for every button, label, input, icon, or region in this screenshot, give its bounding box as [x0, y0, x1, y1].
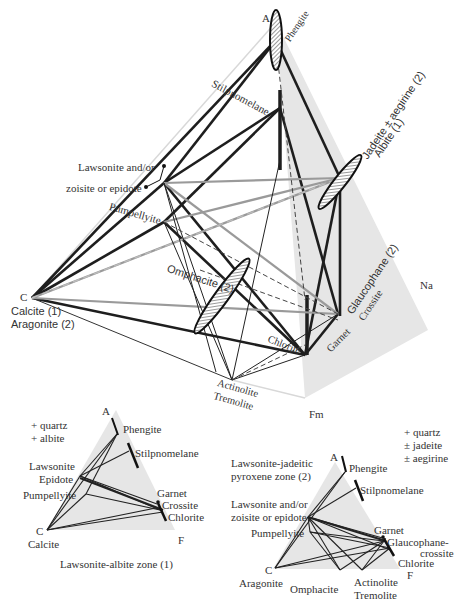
assemblage-2-jadeite: ± jadeite: [404, 440, 442, 451]
d2-vertex-f: F: [407, 570, 413, 581]
d1-caption: Lawsonite-albite zone (1): [60, 559, 173, 570]
d1-label-chlorite: Chlorite: [168, 512, 204, 523]
shaded-face: [276, 22, 428, 398]
d2-label-actinolite: Actinolite: [354, 577, 398, 588]
label-calcite: Calcite (1): [11, 306, 61, 317]
omphacite-field: [189, 255, 254, 338]
d2-label-omphacite: Omphacite: [290, 584, 338, 595]
d2-label-aragonite: Aragonite: [239, 578, 283, 589]
d1-label-lawsonite: Lawsonite: [29, 461, 75, 472]
label-zoisite-epidote: zoisite or epidote: [66, 183, 142, 194]
d1-vertex-f: F: [178, 535, 184, 546]
d1-vertex-c: C: [36, 526, 43, 537]
assemblage-1-quartz: + quartz: [31, 420, 67, 431]
d2-label-stilpnomelane: Stilpnomelane: [360, 485, 424, 496]
phengite-field: [270, 10, 282, 70]
label-lawsonite: Lawsonite and/or: [78, 162, 155, 173]
label-aragonite: Aragonite (2): [11, 319, 75, 330]
vertex-fm: Fm: [309, 409, 324, 420]
d1-label-stilpnomelane: Stilpnomelane: [135, 448, 199, 459]
d2-label-chlorite: Chlorite: [398, 558, 434, 569]
d1-label-crossite: Crossite: [162, 500, 198, 511]
d2-caption-1: Lawsonite-jadeitic: [231, 458, 313, 469]
d2-caption-2: pyroxene zone (2): [231, 471, 311, 482]
d1-vertex-a: A: [102, 406, 110, 417]
assemblage-2-aegirine: ± aegirine: [404, 453, 448, 464]
d2-label-pumpellyite: Pumpellyite: [251, 528, 304, 539]
d2-label-phengite: Phengite: [349, 463, 388, 474]
d1-label-pumpellyite: Pumpellyite: [23, 490, 76, 501]
d2-vertex-c: C: [265, 565, 272, 576]
assemblage-2-quartz: + quartz: [404, 427, 440, 438]
vertex-na: Na: [420, 280, 433, 291]
d2-label-lawsonite: Lawsonite and/or: [231, 499, 308, 510]
d1-label-phengite: Phengite: [123, 424, 162, 435]
d2-label-zoisite: zoisite or epidote: [231, 512, 307, 523]
d1-label-garnet: Garnet: [157, 488, 187, 499]
vertex-c: C: [20, 292, 27, 303]
assemblage-1-albite: + albite: [31, 433, 64, 444]
vertex-a: A: [262, 13, 270, 24]
d2-label-tremolite: Tremolite: [354, 590, 397, 600]
d2-vertex-a: A: [330, 452, 338, 463]
d2-label-garnet: Garnet: [374, 525, 404, 536]
d1-label-epidote: Epidote: [39, 474, 73, 485]
d1-label-calcite: Calcite: [28, 539, 59, 550]
